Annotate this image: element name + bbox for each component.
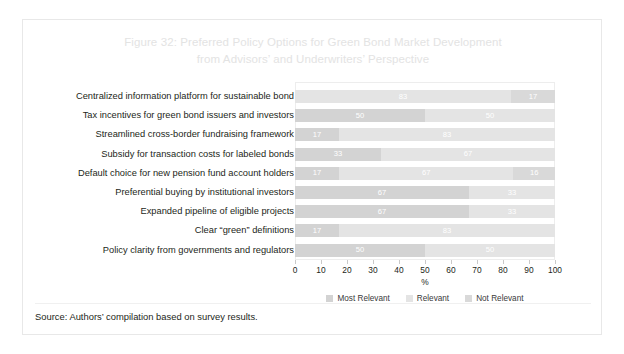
bar-value-label: 50 bbox=[356, 246, 364, 254]
bar-value-label: 83 bbox=[443, 227, 451, 235]
bar-track: 176716 bbox=[295, 167, 555, 180]
category-label: Centralized information platform for sus… bbox=[29, 87, 294, 106]
legend-swatch-icon bbox=[326, 295, 333, 302]
bar-row: 5050 bbox=[295, 106, 555, 125]
axis-tick-mark bbox=[503, 260, 504, 264]
axis-tick-mark bbox=[529, 260, 530, 264]
category-label: Policy clarity from governments and regu… bbox=[29, 241, 294, 260]
bar-segment[interactable]: 50 bbox=[295, 109, 425, 122]
bar-segment[interactable]: 83 bbox=[339, 224, 555, 237]
bar-value-label: 17 bbox=[313, 169, 321, 177]
legend-item[interactable]: Relevant bbox=[406, 294, 449, 303]
bar-row: 5050 bbox=[295, 241, 555, 260]
legend-label: Relevant bbox=[417, 294, 449, 303]
axis-tick-label: 40 bbox=[394, 265, 403, 275]
bar-track: 6733 bbox=[295, 186, 555, 199]
bar-value-label: 33 bbox=[508, 208, 516, 216]
bar-row: 176716 bbox=[295, 164, 555, 183]
bar-value-label: 67 bbox=[464, 150, 472, 158]
axis-tick-label: 100 bbox=[548, 265, 562, 275]
bar-track: 5050 bbox=[295, 109, 555, 122]
chart-region: Centralized information platform for sus… bbox=[23, 82, 603, 297]
bar-value-label: 50 bbox=[486, 246, 494, 254]
bar-segment[interactable]: 50 bbox=[425, 244, 555, 257]
bar-segment[interactable]: 17 bbox=[511, 90, 555, 103]
bar-value-label: 33 bbox=[334, 150, 342, 158]
bar-segment[interactable]: 17 bbox=[295, 128, 339, 141]
bar-value-label: 67 bbox=[378, 189, 386, 197]
bar-value-label: 83 bbox=[443, 131, 451, 139]
bar-track: 5050 bbox=[295, 244, 555, 257]
legend-item[interactable]: Not Relevant bbox=[465, 294, 523, 303]
axis-tick-mark bbox=[295, 260, 296, 264]
bar-value-label: 16 bbox=[530, 169, 538, 177]
bar-segment[interactable]: 50 bbox=[425, 109, 555, 122]
bar-segment[interactable]: 50 bbox=[295, 244, 425, 257]
bar-segment[interactable]: 17 bbox=[295, 224, 339, 237]
bar-segment[interactable]: 67 bbox=[339, 167, 513, 180]
bar-segment[interactable]: 67 bbox=[295, 186, 469, 199]
bar-segment[interactable]: 83 bbox=[339, 128, 555, 141]
bar-segment[interactable]: 83 bbox=[295, 90, 511, 103]
axis-tick-mark bbox=[399, 260, 400, 264]
bar-row: 1783 bbox=[295, 221, 555, 240]
figure-title: Figure 32: Preferred Policy Options for … bbox=[63, 34, 563, 68]
bar-row: 8317 bbox=[295, 87, 555, 106]
axis-tick-mark bbox=[373, 260, 374, 264]
axis-title: % bbox=[295, 277, 555, 287]
axis-tick-mark bbox=[347, 260, 348, 264]
bar-segment[interactable]: 67 bbox=[295, 205, 469, 218]
figure-title-line-1: Figure 32: Preferred Policy Options for … bbox=[63, 34, 563, 51]
bar-track: 3367 bbox=[295, 148, 555, 161]
bar-track: 8317 bbox=[295, 90, 555, 103]
bar-rows: 83175050178333671767166733673317835050 bbox=[295, 87, 555, 260]
axis-tick-mark bbox=[321, 260, 322, 264]
source-divider bbox=[35, 303, 591, 304]
bar-segment[interactable]: 67 bbox=[381, 148, 555, 161]
legend-label: Most Relevant bbox=[337, 294, 389, 303]
bar-value-label: 50 bbox=[486, 112, 494, 120]
category-label: Preferential buying by institutional inv… bbox=[29, 183, 294, 202]
axis-tick-label: 60 bbox=[446, 265, 455, 275]
bar-value-label: 17 bbox=[313, 131, 321, 139]
plot-area: 83175050178333671767166733673317835050 bbox=[295, 82, 555, 264]
bar-value-label: 67 bbox=[422, 169, 430, 177]
legend-label: Not Relevant bbox=[476, 294, 523, 303]
axis-tick-label: 50 bbox=[420, 265, 429, 275]
bar-row: 3367 bbox=[295, 145, 555, 164]
axis-tick-label: 80 bbox=[498, 265, 507, 275]
axis-tick-label: 20 bbox=[342, 265, 351, 275]
source-note: Source: Authors’ compilation based on su… bbox=[35, 311, 258, 322]
bar-segment[interactable]: 33 bbox=[469, 186, 555, 199]
bar-segment[interactable]: 16 bbox=[513, 167, 555, 180]
axis-tick-label: 10 bbox=[316, 265, 325, 275]
bar-track: 6733 bbox=[295, 205, 555, 218]
bar-value-label: 67 bbox=[378, 208, 386, 216]
value-axis: % 0102030405060708090100 bbox=[295, 260, 555, 294]
bar-row: 6733 bbox=[295, 183, 555, 202]
axis-tick-label: 90 bbox=[524, 265, 533, 275]
bar-value-label: 33 bbox=[508, 189, 516, 197]
bar-row: 1783 bbox=[295, 125, 555, 144]
category-label: Default choice for new pension fund acco… bbox=[29, 164, 294, 183]
bar-value-label: 17 bbox=[529, 93, 537, 101]
legend-swatch-icon bbox=[465, 295, 472, 302]
bar-row: 6733 bbox=[295, 202, 555, 221]
chart-legend: Most RelevantRelevantNot Relevant bbox=[295, 294, 555, 303]
category-label: Subsidy for transaction costs for labele… bbox=[29, 145, 294, 164]
bar-value-label: 50 bbox=[356, 112, 364, 120]
legend-item[interactable]: Most Relevant bbox=[326, 294, 389, 303]
axis-tick-label: 70 bbox=[472, 265, 481, 275]
axis-tick-mark bbox=[451, 260, 452, 264]
bar-segment[interactable]: 33 bbox=[295, 148, 381, 161]
figure-card: Figure 32: Preferred Policy Options for … bbox=[22, 19, 602, 335]
category-label: Clear “green” definitions bbox=[29, 221, 294, 240]
bar-track: 1783 bbox=[295, 128, 555, 141]
bar-value-label: 83 bbox=[399, 93, 407, 101]
category-label: Streamlined cross-border fundraising fra… bbox=[29, 125, 294, 144]
bar-value-label: 17 bbox=[313, 227, 321, 235]
bar-segment[interactable]: 17 bbox=[295, 167, 339, 180]
axis-tick-mark bbox=[555, 260, 556, 264]
bar-segment[interactable]: 33 bbox=[469, 205, 555, 218]
axis-tick-label: 30 bbox=[368, 265, 377, 275]
